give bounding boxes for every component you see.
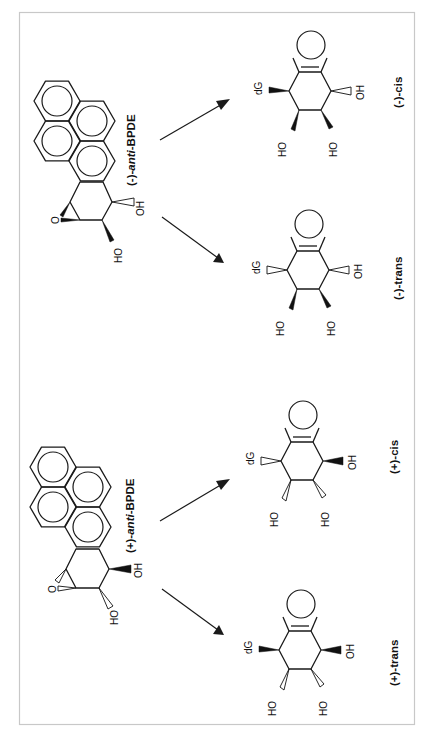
reactant-minus-anti-bpde: O OH HO (-)-anti-BPDE bbox=[34, 81, 146, 263]
oh-label: OH bbox=[133, 563, 144, 578]
ho-right-label: HO bbox=[326, 321, 337, 336]
arrow-to-plus-trans bbox=[162, 589, 224, 635]
ho-left-label: HO bbox=[277, 142, 288, 157]
product-label-minus-cis: (-)-cis bbox=[392, 77, 404, 108]
ho-left-wedge bbox=[280, 669, 289, 690]
oh-label: OH bbox=[355, 85, 366, 100]
epoxide-oxygen: O bbox=[50, 216, 61, 224]
ho-right-wedge bbox=[321, 110, 333, 129]
reaction-scheme: O OH HO (-)-anti-BPDE dG OH HO HO (-)-ci… bbox=[0, 0, 422, 744]
oh-open-wedge bbox=[112, 198, 134, 206]
reactant-plus-anti-bpde: O OH HO (+)-anti-BPDE bbox=[30, 447, 144, 625]
ho-right-label: HO bbox=[318, 701, 329, 716]
oh-solid-wedge bbox=[109, 565, 131, 573]
epoxide-open-wedge-2 bbox=[58, 586, 76, 591]
ho-right-wedge bbox=[319, 289, 331, 308]
saturated-ring bbox=[66, 549, 109, 588]
oh-open-wedge bbox=[329, 266, 349, 274]
arrow-to-minus-trans bbox=[162, 217, 224, 263]
ho-right-wedge bbox=[313, 480, 326, 498]
oh-solid-wedge bbox=[321, 646, 341, 654]
saturated-ring bbox=[70, 182, 112, 220]
dg-label: dG bbox=[243, 640, 254, 654]
oh-label: OH bbox=[345, 644, 356, 659]
reactant-label: (+)-anti-BPDE bbox=[124, 478, 136, 553]
ho-right-wedge bbox=[311, 669, 324, 687]
ho-left-wedge bbox=[289, 289, 297, 310]
arrow-to-plus-cis bbox=[160, 479, 230, 521]
ho-left-label: HO bbox=[267, 701, 278, 716]
ho-left-label: HO bbox=[269, 512, 280, 527]
dg-open-wedge bbox=[267, 266, 287, 274]
product-label-plus-cis: (+)-cis bbox=[388, 440, 400, 474]
oh-open-wedge bbox=[331, 87, 351, 95]
ho-left-label: HO bbox=[275, 321, 286, 336]
dg-solid-wedge bbox=[259, 646, 279, 652]
oh-label: OH bbox=[347, 455, 358, 470]
oh-solid-wedge bbox=[323, 457, 343, 465]
figure-frame bbox=[20, 13, 415, 725]
dg-open-wedge bbox=[261, 457, 281, 465]
product-minus-cis: dG OH HO HO bbox=[253, 31, 366, 157]
epoxide-wedge-1 bbox=[60, 202, 70, 217]
ho-left-wedge bbox=[282, 480, 291, 501]
product-label-plus-trans: (+)-trans bbox=[388, 640, 400, 686]
product-label-minus-trans: (-)-trans bbox=[392, 257, 404, 300]
dg-label: dG bbox=[253, 81, 264, 95]
ho-left-wedge bbox=[291, 110, 299, 131]
product-minus-trans: dG OH HO HO bbox=[251, 210, 364, 336]
ho-open-wedge bbox=[99, 588, 113, 609]
ho-label: HO bbox=[109, 610, 120, 625]
ho-label: HO bbox=[113, 248, 124, 263]
arrow-to-minus-cis bbox=[160, 99, 230, 140]
oh-label: OH bbox=[135, 201, 146, 216]
epoxide-wedge-2 bbox=[61, 218, 80, 222]
ho-right-label: HO bbox=[328, 142, 339, 157]
dg-label: dG bbox=[251, 260, 262, 274]
ho-right-label: HO bbox=[320, 512, 331, 527]
ho-solid-wedge bbox=[102, 220, 114, 242]
product-plus-cis: dG OH HO HO bbox=[245, 401, 358, 527]
product-plus-trans: dG OH HO HO bbox=[243, 590, 356, 716]
epoxide-open-wedge-1 bbox=[55, 569, 66, 583]
dg-label: dG bbox=[245, 451, 256, 465]
dg-solid-wedge bbox=[269, 87, 289, 93]
oh-label: OH bbox=[353, 264, 364, 279]
epoxide-oxygen: O bbox=[47, 585, 58, 593]
reactant-label: (-)-anti-BPDE bbox=[125, 114, 137, 186]
